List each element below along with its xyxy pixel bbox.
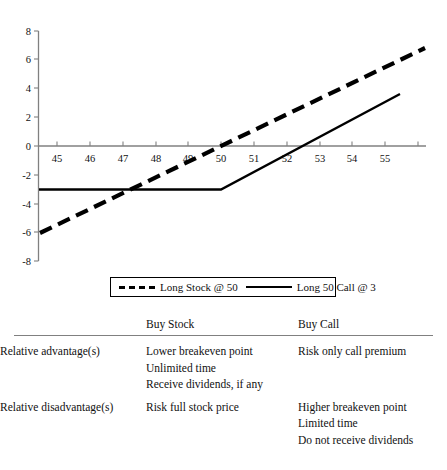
chart-legend: Long Stock @ 50 Long 50 Call @ 3 <box>110 277 336 297</box>
y-tick-label: -4 <box>22 199 31 210</box>
y-tick-label: 8 <box>26 26 31 37</box>
table-row: Relative advantage(s) Lower breakeven po… <box>0 336 447 392</box>
cell-advantages-buy-call: Risk only call premium <box>298 336 447 392</box>
solid-line-swatch-icon <box>246 286 292 288</box>
x-tick-label: 54 <box>347 153 358 164</box>
x-tick-label: 46 <box>85 153 96 164</box>
list-item: Risk only call premium <box>298 343 447 359</box>
payoff-chart: 8 6 4 2 0 -2 -4 -6 -8 <box>0 0 447 308</box>
y-axis-tick-labels: 8 6 4 2 0 -2 -4 -6 -8 <box>22 26 32 267</box>
table-corner-cell <box>0 316 146 335</box>
list-item: Unlimited time <box>146 360 298 376</box>
cell-disadvantages-buy-stock: Risk full stock price <box>146 392 298 448</box>
row-label-relative-advantages: Relative advantage(s) <box>0 336 146 392</box>
y-tick-label: 6 <box>26 54 31 65</box>
table-row: Relative disadvantage(s) Risk full stock… <box>0 392 447 448</box>
legend-label: Long 50 Call @ 3 <box>297 281 376 293</box>
row-label-relative-disadvantages: Relative disadvantage(s) <box>0 392 146 448</box>
cell-advantages-buy-stock: Lower breakeven point Unlimited time Rec… <box>146 336 298 392</box>
x-tick-label: 51 <box>249 153 260 164</box>
x-tick-label: 45 <box>52 153 63 164</box>
cell-disadvantages-buy-call: Higher breakeven point Limited time Do n… <box>298 392 447 448</box>
list-item: Limited time <box>298 415 447 431</box>
column-header-buy-stock: Buy Stock <box>146 316 298 335</box>
series-long-call-line <box>39 94 400 190</box>
y-axis-ticks <box>34 31 39 261</box>
list-item: Receive dividends, if any <box>146 376 298 392</box>
item-list: Risk only call premium <box>298 343 447 359</box>
column-header-buy-call: Buy Call <box>298 316 447 335</box>
x-tick-label: 47 <box>118 153 129 164</box>
y-tick-label: 4 <box>26 83 32 94</box>
list-item: Lower breakeven point <box>146 343 298 359</box>
y-tick-label: -8 <box>22 256 31 267</box>
payoff-chart-svg: 8 6 4 2 0 -2 -4 -6 -8 <box>0 0 447 308</box>
list-item: Do not receive dividends <box>298 432 447 448</box>
legend-label: Long Stock @ 50 <box>160 281 238 293</box>
comparison-table-wrapper: Buy Stock Buy Call Relative advantage(s)… <box>0 316 447 448</box>
figure-payoff-diagram-and-comparison-table: 8 6 4 2 0 -2 -4 -6 -8 <box>0 0 447 470</box>
y-tick-label: 2 <box>26 112 31 123</box>
list-item: Risk full stock price <box>146 399 298 415</box>
item-list: Higher breakeven point Limited time Do n… <box>298 399 447 448</box>
y-tick-label: -6 <box>22 227 31 238</box>
list-item: Higher breakeven point <box>298 399 447 415</box>
legend-item-long-stock: Long Stock @ 50 <box>111 278 238 296</box>
x-axis-tick-labels: 45 46 47 48 49 50 51 52 53 54 55 <box>52 153 391 164</box>
item-list: Lower breakeven point Unlimited time Rec… <box>146 343 298 392</box>
x-axis-ticks <box>57 142 418 147</box>
series-long-stock-line <box>40 48 425 233</box>
table-header-row: Buy Stock Buy Call <box>0 316 447 335</box>
comparison-table: Buy Stock Buy Call Relative advantage(s)… <box>0 316 447 448</box>
x-tick-label: 53 <box>315 153 326 164</box>
y-tick-label: 0 <box>26 141 31 152</box>
legend-item-long-call: Long 50 Call @ 3 <box>238 278 376 296</box>
item-list: Risk full stock price <box>146 399 298 415</box>
y-tick-label: -2 <box>22 170 31 181</box>
x-tick-label: 55 <box>380 153 391 164</box>
dashed-line-swatch-icon <box>119 286 155 289</box>
x-tick-label: 50 <box>216 153 227 164</box>
x-tick-label: 48 <box>151 153 162 164</box>
